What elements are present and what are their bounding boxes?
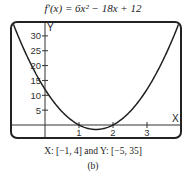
y-tick-label: 30 [30, 30, 41, 41]
x-tick-label: 2 [110, 127, 115, 138]
subfigure-label: (b) [0, 161, 186, 171]
y-tick-label: 25 [30, 45, 41, 56]
window-range-label: X: [−1, 4] and Y: [−5, 35] [0, 146, 186, 156]
y-tick-label: 10 [30, 90, 41, 101]
y-tick-label: 5 [36, 105, 41, 116]
x-tick-label: 1 [76, 127, 81, 138]
tick-marks [42, 36, 147, 128]
tick-labels: 12351015202530 [30, 30, 149, 138]
derivative-curve [8, 9, 184, 129]
y-axis-letter: Y [47, 22, 54, 33]
x-tick-label: 3 [144, 127, 149, 138]
x-axis-letter: X [172, 113, 179, 124]
